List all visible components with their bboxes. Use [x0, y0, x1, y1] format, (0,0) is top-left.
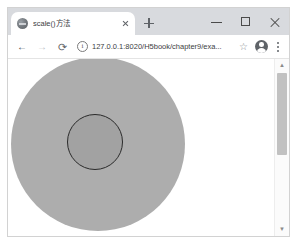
forward-arrow-icon: → — [32, 37, 52, 57]
info-circle-icon[interactable] — [77, 41, 88, 52]
browser-window: scale()方法 ← → ⟳ 127.0.0.1:8020/H5book/ch… — [7, 7, 290, 237]
inner-circle-shape — [67, 114, 123, 170]
menu-dot — [277, 46, 279, 48]
reload-icon: ⟳ — [52, 37, 72, 57]
reload-button[interactable]: ⟳ — [52, 37, 72, 57]
window-minimize-button[interactable] — [202, 8, 231, 35]
window-controls — [202, 8, 289, 35]
scrollbar-thumb[interactable] — [277, 73, 287, 155]
account-avatar-icon[interactable] — [255, 40, 268, 53]
globe-favicon-icon — [17, 18, 28, 29]
address-bar[interactable]: 127.0.0.1:8020/H5book/chapter9/exa... — [77, 38, 232, 55]
three-dot-menu-icon[interactable] — [271, 38, 285, 56]
scrollbar-up-arrow-icon[interactable]: ▲ — [275, 59, 289, 72]
tab-close-icon[interactable] — [119, 18, 131, 30]
scrollbar-down-arrow-icon[interactable]: ▼ — [275, 223, 289, 236]
menu-dot — [277, 42, 279, 44]
back-arrow-icon: ← — [12, 37, 32, 57]
browser-toolbar: ← → ⟳ 127.0.0.1:8020/H5book/chapter9/exa… — [8, 35, 289, 59]
url-text: 127.0.0.1:8020/H5book/chapter9/exa... — [92, 41, 222, 52]
bookmark-star-icon[interactable]: ☆ — [235, 38, 252, 55]
page-viewport: ▲ ▼ — [8, 59, 289, 236]
canvas-area — [8, 59, 274, 236]
window-maximize-button[interactable] — [231, 8, 260, 35]
tab-scale-method[interactable]: scale()方法 — [11, 12, 135, 35]
forward-button[interactable]: → — [32, 37, 52, 57]
tab-strip: scale()方法 — [8, 8, 289, 35]
back-button[interactable]: ← — [12, 37, 32, 57]
new-tab-button[interactable] — [139, 13, 159, 33]
tab-title: scale()方法 — [33, 19, 117, 29]
window-close-button[interactable] — [260, 8, 289, 35]
menu-dot — [277, 50, 279, 52]
vertical-scrollbar[interactable]: ▲ ▼ — [274, 59, 289, 236]
